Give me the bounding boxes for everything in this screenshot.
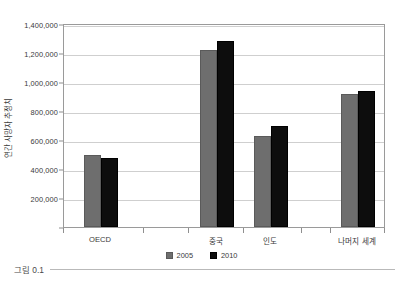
x-axis-tick — [188, 228, 189, 233]
caption-text: 그림 0.1 — [14, 263, 44, 275]
legend-label: 2005 — [177, 251, 193, 260]
y-axis-tick-label: 1,000,000 — [0, 79, 58, 88]
x-axis-tick — [330, 228, 331, 233]
legend-item: 2005 — [166, 251, 193, 260]
bar — [101, 158, 118, 227]
x-axis-tick — [243, 228, 244, 233]
x-axis-category-label: 중국 — [209, 235, 223, 246]
legend-swatch — [166, 252, 173, 259]
x-axis-category-label: OECD — [89, 235, 111, 244]
caption-rule — [50, 269, 395, 270]
y-axis-tick-label: 400,000 — [0, 166, 58, 175]
bar — [254, 136, 271, 227]
bar — [84, 155, 101, 227]
figure-container: 연간 사망자 추정치 200,000400,000600,000800,0001… — [0, 0, 403, 284]
legend-label: 2010 — [221, 251, 237, 260]
bar-group — [339, 24, 377, 227]
bar-group — [82, 24, 120, 227]
y-axis-tick-label: 200,000 — [0, 195, 58, 204]
x-axis-tick — [384, 228, 385, 233]
x-axis-tick — [63, 228, 64, 233]
bar-group — [198, 24, 236, 227]
bar — [217, 41, 234, 227]
chart-legend: 20052010 — [0, 251, 403, 260]
bar — [271, 126, 288, 228]
legend-item: 2010 — [210, 251, 237, 260]
bar — [341, 94, 358, 227]
x-axis-tick — [143, 228, 144, 233]
y-axis-tick-label: 1,400,000 — [0, 21, 58, 30]
y-axis-tick-label: 600,000 — [0, 137, 58, 146]
bar — [200, 50, 217, 227]
x-axis-category-label: 인도 — [263, 235, 277, 246]
x-axis-tick — [301, 228, 302, 233]
legend-swatch — [210, 252, 217, 259]
bar-group — [252, 24, 290, 227]
figure-caption: 그림 0.1 — [14, 263, 395, 275]
x-axis-category-label: 나머지 세계 — [338, 235, 375, 246]
plot-area — [63, 24, 385, 228]
bar — [358, 91, 375, 227]
y-axis-tick-label: 800,000 — [0, 108, 58, 117]
y-axis-tick-label: 1,200,000 — [0, 50, 58, 59]
